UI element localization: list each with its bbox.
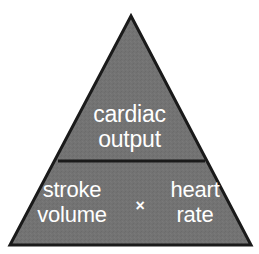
cardiac-output-pyramid-diagram: cardiac output stroke volume × heart rat… (0, 0, 259, 254)
pyramid-graphic (0, 0, 259, 254)
pyramid-outline (10, 16, 251, 245)
